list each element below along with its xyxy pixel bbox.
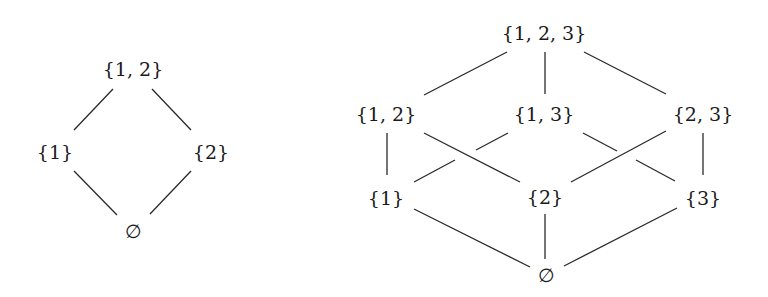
node-set-3: {3} <box>685 187 721 209</box>
node-set-1-2: {1, 2} <box>356 103 416 125</box>
node-set-1-2: {1, 2} <box>103 58 163 80</box>
edge-s12-s1 <box>74 89 113 130</box>
node-set-2-3: {2, 3} <box>673 103 733 125</box>
node-empty-set: ∅ <box>538 264 555 286</box>
edge-s1-empty <box>414 209 530 267</box>
edge-s13-s1 <box>476 133 508 150</box>
node-empty-set: ∅ <box>125 220 142 242</box>
edges <box>74 89 191 215</box>
edge-s1-empty <box>74 171 117 215</box>
node-set-1-3: {1, 3} <box>514 103 574 125</box>
hasse-diagrams-figure: {1, 2} {1} {2} ∅ {1, 2, 3} {1, 2} {1, 3}… <box>0 0 768 297</box>
hasse-diagram-powerset-3: {1, 2, 3} {1, 2} {1, 3} {2, 3} {1} {2} {… <box>356 22 733 286</box>
edges <box>387 52 703 267</box>
node-set-1-2-3: {1, 2, 3} <box>502 22 587 44</box>
edge-s12-s2 <box>152 89 191 130</box>
edge-s123-s23 <box>584 52 666 94</box>
edge-s23-s2 <box>571 131 666 182</box>
nodes: {1, 2} {1} {2} ∅ <box>37 58 229 242</box>
edge-s3-empty <box>564 208 677 266</box>
edge-s13-s1 <box>414 160 455 182</box>
node-set-1: {1} <box>368 187 404 209</box>
edge-s13-s3 <box>636 160 675 181</box>
hasse-diagram-powerset-2: {1, 2} {1} {2} ∅ <box>37 58 229 242</box>
node-set-1: {1} <box>37 141 73 163</box>
edge-s13-s3 <box>583 133 617 151</box>
edge-s123-s12 <box>424 52 507 95</box>
edge-s2-empty <box>150 171 191 214</box>
edge-s12-s2 <box>424 133 520 182</box>
node-set-2: {2} <box>193 141 229 163</box>
node-set-2: {2} <box>527 186 563 208</box>
